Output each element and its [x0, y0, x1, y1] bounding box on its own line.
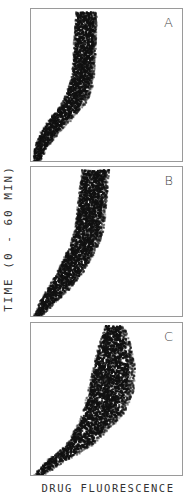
- panel-label-a: A: [164, 15, 173, 30]
- panel-label-b: B: [164, 173, 173, 188]
- panel-label-c: C: [164, 329, 173, 344]
- scatter-plot-a: [31, 9, 183, 162]
- y-axis-label: TIME (0 - 60 MIN): [2, 159, 15, 319]
- panel-b: B: [30, 166, 183, 317]
- panel-a: A: [30, 8, 183, 162]
- panel-c: C: [30, 322, 183, 476]
- scatter-plot-c: [31, 323, 183, 476]
- scatter-plot-b: [31, 167, 183, 317]
- x-axis-label: DRUG FLUORESCENCE: [28, 482, 188, 494]
